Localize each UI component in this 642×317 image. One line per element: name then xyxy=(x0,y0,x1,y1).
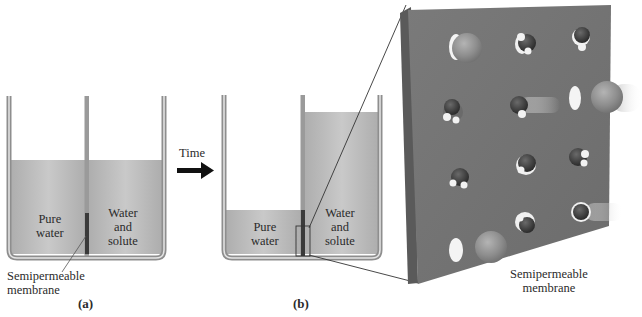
label-line: solute xyxy=(325,234,355,248)
label-line: and xyxy=(108,220,138,234)
beaker-a-left-label: Pure water xyxy=(36,212,64,240)
label-line: Pure xyxy=(36,212,64,226)
water-molecule xyxy=(571,202,591,222)
label-line: membrane xyxy=(510,281,588,295)
label-line: Pure xyxy=(251,220,279,234)
beaker-b-membrane xyxy=(301,210,305,256)
beaker-a-right-label: Water and solute xyxy=(108,206,138,248)
time-label: Time xyxy=(179,146,205,160)
pore xyxy=(449,238,463,262)
label-line: Water xyxy=(325,206,355,220)
label-line: and xyxy=(325,220,355,234)
membrane-callout-a: Semipermeable membrane xyxy=(7,269,85,297)
label-line: Semipermeable xyxy=(510,267,588,281)
solute-molecule xyxy=(452,33,482,63)
solute-molecule xyxy=(475,231,507,263)
pore xyxy=(569,86,581,110)
beaker-b-right-label: Water and solute xyxy=(325,206,355,248)
label-line: membrane xyxy=(7,283,85,297)
label-line: solute xyxy=(108,234,138,248)
time-arrow-icon xyxy=(177,162,214,179)
label-line: Semipermeable xyxy=(7,269,85,283)
membrane-callout-magnified: Semipermeable membrane xyxy=(510,267,588,295)
beaker-a xyxy=(9,96,164,272)
label-line: water xyxy=(251,234,279,248)
beaker-b-left-label: Pure water xyxy=(251,220,279,248)
membrane-panel xyxy=(400,5,642,284)
panel-a-label: (a) xyxy=(78,297,93,311)
beaker-a-membrane xyxy=(85,213,89,254)
label-line: water xyxy=(36,226,64,240)
label-line: Water xyxy=(108,206,138,220)
panel-b-label: (b) xyxy=(293,297,309,311)
solute-molecule-outside xyxy=(591,81,623,113)
